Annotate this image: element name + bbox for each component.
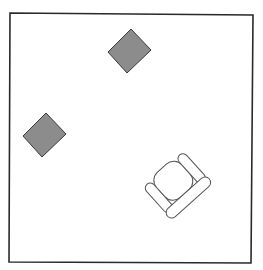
floor-plan-diagram (0, 0, 263, 270)
